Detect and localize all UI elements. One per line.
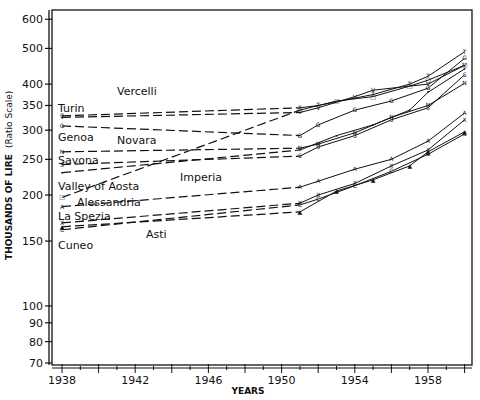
svg-text:THOUSANDS OF LIRE: THOUSANDS OF LIRE [4, 154, 14, 260]
data-marker: ▲ [298, 208, 303, 215]
data-marker: S [426, 104, 430, 111]
y-tick-label: 350 [22, 99, 43, 112]
data-marker: ▲ [371, 176, 376, 183]
data-marker: □ [407, 82, 413, 89]
y-tick-label: 70 [29, 357, 43, 370]
data-marker: • [371, 121, 375, 128]
label-cuneo: Cuneo [58, 239, 93, 252]
data-marker: • [426, 88, 430, 95]
data-marker: A [426, 137, 431, 144]
data-marker: ▲ [334, 187, 339, 194]
y-tick-label: 500 [22, 42, 43, 55]
x-tick-label: 1938 [48, 374, 76, 387]
y-axis: 708090100150200250300350400500600 [22, 13, 52, 370]
svg-text:(Ratio Scale): (Ratio Scale) [4, 91, 14, 148]
data-marker: G [298, 132, 303, 139]
series-turin: TTTTTTT [59, 48, 467, 119]
label-savona: Savona [58, 154, 99, 167]
data-marker: S [353, 132, 357, 139]
data-marker: X [463, 116, 467, 123]
data-marker: □ [425, 76, 431, 83]
data-marker: S [298, 152, 302, 159]
data-marker: G [389, 97, 394, 104]
label-vercelli: Vercelli [117, 85, 157, 98]
y-tick-label: 90 [29, 317, 43, 330]
data-marker: ▲ [407, 162, 412, 169]
data-marker: G [316, 121, 321, 128]
x-axis: 193819421946195019541958 [48, 364, 472, 387]
data-marker: G [60, 122, 65, 129]
data-marker: S [316, 143, 320, 150]
x-tick-label: 1954 [341, 374, 369, 387]
y-tick-label: 100 [22, 300, 43, 313]
y-tick-label: 200 [22, 189, 43, 202]
x-tick-label: 1950 [268, 374, 296, 387]
data-marker: G [352, 106, 357, 113]
label-asti: Asti [146, 228, 167, 241]
label-alessandria: Alessandria [77, 196, 141, 209]
label-novara: Novara [117, 134, 156, 147]
data-marker: • [335, 132, 339, 139]
data-marker: ▲ [60, 223, 65, 230]
x-tick-label: 1942 [121, 374, 149, 387]
series-la-spezia: XXXXXXX [60, 116, 467, 226]
x-tick-label: 1958 [414, 374, 442, 387]
data-marker: □ [334, 97, 340, 104]
data-marker: ▲ [462, 128, 467, 135]
data-marker: N [462, 79, 467, 86]
y-tick-label: 150 [22, 235, 43, 248]
label-genoa: Genoa [58, 131, 94, 144]
label-imperia: Imperia [180, 171, 222, 184]
data-marker: □ [462, 61, 468, 68]
y-tick-label: 400 [22, 78, 43, 91]
data-marker: C [298, 201, 302, 208]
series-imperia: ••••••• [60, 65, 466, 176]
data-marker: □ [297, 106, 303, 113]
label-turin: Turin [57, 102, 85, 115]
data-marker: • [408, 106, 412, 113]
y-tick-label: 80 [29, 336, 43, 349]
x-axis-title: YEARS [230, 386, 264, 396]
data-marker: • [60, 169, 64, 176]
label-aosta: Valley of Aosta [58, 180, 139, 193]
data-marker: ▲ [426, 148, 431, 155]
data-marker: • [298, 146, 302, 153]
data-marker: □ [59, 193, 65, 200]
line-chart: 708090100150200250300350400500600 193819… [0, 0, 480, 400]
y-tick-label: 250 [22, 153, 43, 166]
data-marker: □ [370, 93, 376, 100]
label-laspezia: La Spezia [58, 210, 111, 223]
y-axis-title: THOUSANDS OF LIRE (Ratio Scale) [4, 91, 14, 260]
y-tick-label: 600 [22, 13, 43, 26]
y-tick-label: 300 [22, 124, 43, 137]
data-marker: G [462, 54, 467, 61]
x-tick-label: 1946 [194, 374, 222, 387]
